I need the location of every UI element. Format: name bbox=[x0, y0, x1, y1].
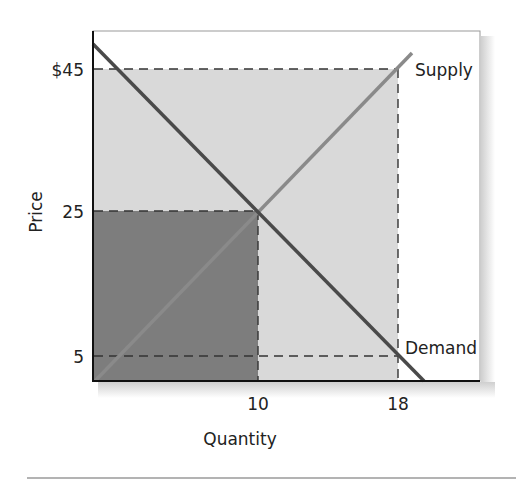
demand-label: Demand bbox=[405, 338, 477, 358]
x-axis-title: Quantity bbox=[203, 429, 276, 449]
supply-demand-chart: Supply Demand $45 25 5 10 18 Quantity Pr… bbox=[0, 0, 516, 480]
y-axis-title: Price bbox=[26, 191, 46, 232]
supply-label: Supply bbox=[415, 60, 473, 80]
frame-shadow-right bbox=[481, 36, 495, 396]
frame-shadow-bottom bbox=[98, 382, 495, 398]
y-tick-45: $45 bbox=[52, 60, 84, 80]
y-tick-25: 25 bbox=[62, 202, 84, 222]
x-tick-18: 18 bbox=[387, 394, 409, 414]
y-tick-5: 5 bbox=[73, 347, 84, 367]
x-tick-10: 10 bbox=[247, 394, 269, 414]
